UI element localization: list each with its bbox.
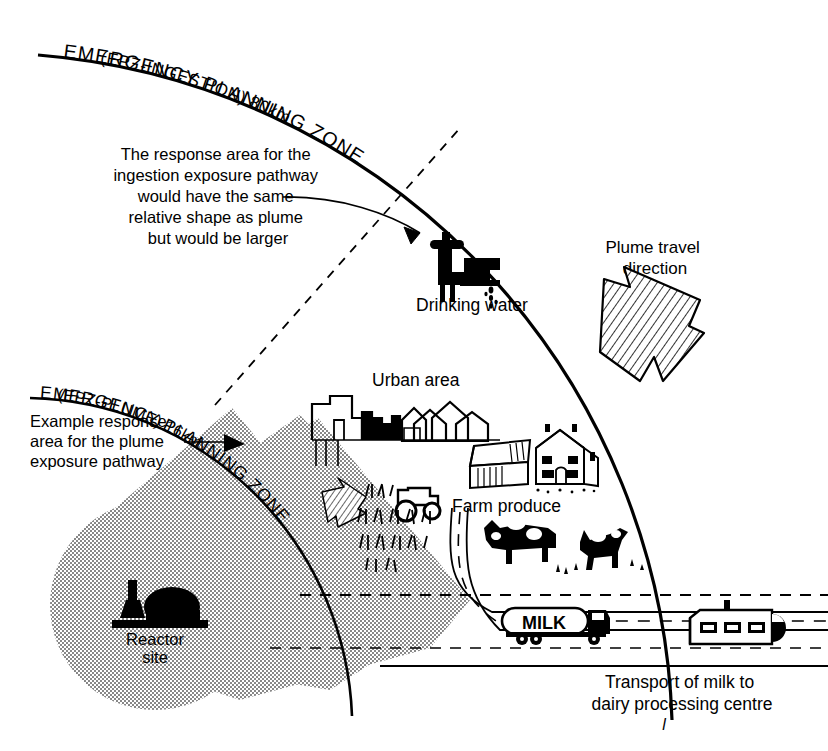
factory-icon [690,600,786,644]
reactor-site-label-line2: site [142,648,168,666]
ingestion-note-line-0: The response area for the [121,145,311,163]
plume-note-line-2: exposure pathway [30,452,165,470]
plume-travel-arrow-icon [600,267,704,381]
milk-transport-line-1: dairy processing centre [592,694,773,714]
page-mark: l [662,716,666,733]
plume-travel-line-0: Plume travel [605,238,699,257]
plume-note-line-0: Example response [30,412,167,430]
ingestion-note: The response area for the ingestion expo… [113,145,420,247]
ingestion-note-line-2: would have the same [137,187,294,205]
cow-icon [484,514,556,564]
milk-tanker-label: MILK [522,613,566,633]
cow-icon-2 [580,528,628,570]
ingestion-note-line-1: ingestion exposure pathway [113,166,318,184]
drinking-water-label: Drinking water [416,295,528,315]
tractor-icon [396,488,440,521]
plume-note-line-1: area for the plume [30,432,164,450]
ingestion-note-line-3: relative shape as plume [129,208,303,226]
svg-text:Transport of milk to d: Transport of milk to dairy processing ce… [592,672,773,714]
milk-transport-line-0: Transport of milk to [605,672,754,692]
epz-ingestion-label-line2: (EPZ-INGESTION) 80km [99,48,294,127]
reactor-site-label-line1: Reactor [126,630,184,648]
svg-text:Example response area: Example response area for the plume expo… [30,412,171,470]
urban-area-label: Urban area [372,370,460,390]
svg-text:The response area for the: The response area for the ingestion expo… [113,145,322,247]
epz-diagram: EMERGENCY PLANNING ZONE (EPZ-INGESTION) … [0,0,828,751]
dairy-plant-feature [690,600,786,644]
farm-produce-feature: Farm produce [452,424,598,516]
ingestion-note-line-4: but would be larger [148,229,289,247]
milk-tanker-feature: MILK [502,608,610,645]
barn-farmhouse-icon [470,424,598,493]
milk-transport-note: Transport of milk to dairy processing ce… [592,672,773,733]
ground-tufts-icon [556,559,644,574]
plume-travel-direction: Plume travel direction [600,238,705,381]
svg-text:Plume travel direction: Plume travel direction [605,238,704,278]
drinking-water-feature: Drinking water [416,232,528,315]
